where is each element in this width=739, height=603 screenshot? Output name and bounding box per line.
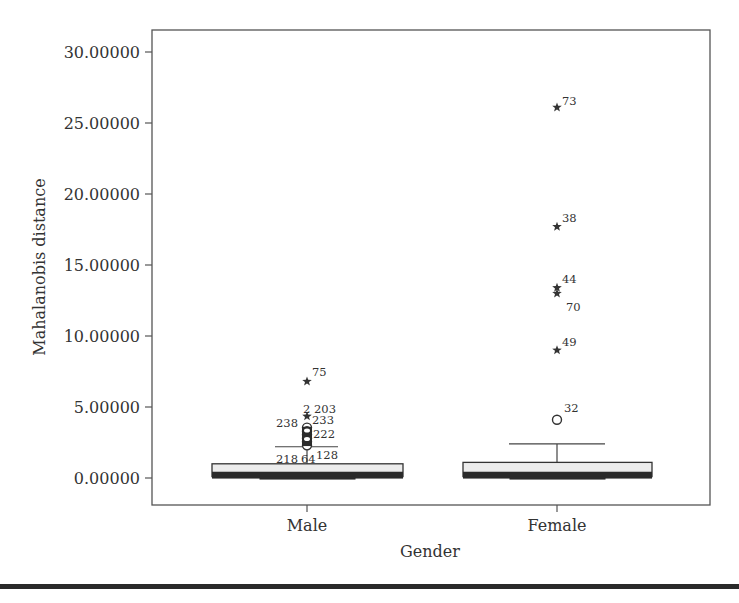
plot-frame [152, 30, 710, 505]
x-axis: MaleFemale [287, 505, 587, 535]
case-label: 238 [276, 416, 298, 430]
y-axis: 0.000005.0000010.0000015.0000020.0000025… [64, 43, 152, 488]
box-male: 75220323323822221864128 [212, 365, 403, 480]
extreme-star-icon [552, 288, 562, 297]
outlier-circle-icon [553, 415, 562, 424]
y-tick-label: 25.00000 [64, 114, 140, 133]
box-female: 733844704932 [463, 94, 652, 480]
case-label: 218 [276, 452, 298, 466]
y-axis-title: Mahalanobis distance [30, 178, 49, 355]
box-plots: 75220323323822221864128733844704932 [212, 94, 652, 480]
lower-whisker [260, 477, 356, 480]
case-label: 49 [562, 335, 577, 349]
case-label: 70 [566, 300, 581, 314]
y-tick-label: 30.00000 [64, 43, 140, 62]
case-label: 128 [316, 448, 338, 462]
case-label: 38 [562, 211, 577, 225]
case-label: 32 [564, 401, 579, 415]
case-label: 2 [303, 402, 310, 416]
y-tick-label: 5.00000 [74, 398, 140, 417]
outlier-circle-icon [304, 428, 310, 432]
boxplot-chart: 0.000005.0000010.0000015.0000020.0000025… [0, 0, 739, 603]
y-tick-label: 10.00000 [64, 327, 140, 346]
extreme-star-icon [302, 376, 312, 385]
extreme-star-icon [552, 345, 562, 354]
y-tick-label: 20.00000 [64, 185, 140, 204]
extreme-star-icon [552, 102, 562, 111]
case-label: 44 [562, 272, 577, 286]
extreme-star-icon [552, 222, 562, 231]
y-tick-label: 15.00000 [64, 256, 140, 275]
outlier-circle-icon [304, 437, 310, 441]
x-tick-label-female: Female [528, 516, 587, 535]
x-tick-label-male: Male [287, 516, 328, 535]
bottom-rule [0, 584, 739, 589]
case-label: 64 [301, 452, 316, 466]
y-tick-label: 0.00000 [74, 469, 140, 488]
case-label: 75 [312, 365, 327, 379]
case-label: 222 [313, 427, 335, 441]
case-label: 233 [312, 413, 334, 427]
x-axis-title: Gender [400, 542, 460, 561]
case-label: 73 [562, 94, 577, 108]
lower-whisker [510, 477, 606, 480]
